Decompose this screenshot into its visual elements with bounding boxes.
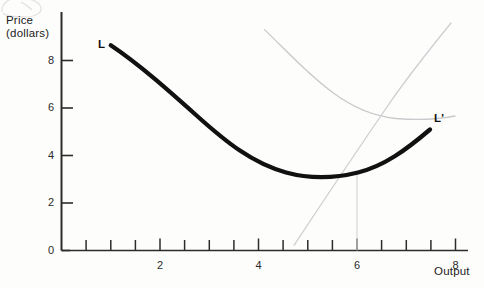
- curve-label-l: L: [98, 38, 105, 51]
- x-axis-ticks: [86, 239, 455, 251]
- y-axis-title-line1: Price: [6, 14, 33, 26]
- x-tick-label-8: 8: [449, 259, 463, 271]
- x-tick-label-2: 2: [153, 259, 167, 271]
- graph-page: Price(dollars) Output 0 2 4 6 8 2 4 6 8 …: [0, 0, 484, 288]
- y-tick-label-4: 4: [40, 149, 54, 161]
- y-tick-label-2: 2: [40, 196, 54, 208]
- curve-label-l-prime: L': [434, 112, 444, 125]
- faint-upper-curve: [265, 30, 456, 120]
- y-axis-title-line2: (dollars): [6, 27, 49, 39]
- main-cost-curve: [111, 45, 430, 177]
- y-axis-title: Price(dollars): [6, 14, 49, 40]
- y-tick-label-0: 0: [40, 244, 54, 256]
- y-tick-label-6: 6: [40, 101, 54, 113]
- plot-canvas: [0, 0, 484, 288]
- y-tick-label-8: 8: [40, 54, 54, 66]
- x-tick-label-6: 6: [350, 259, 364, 271]
- y-axis-ticks: [62, 61, 74, 251]
- x-tick-label-4: 4: [252, 259, 266, 271]
